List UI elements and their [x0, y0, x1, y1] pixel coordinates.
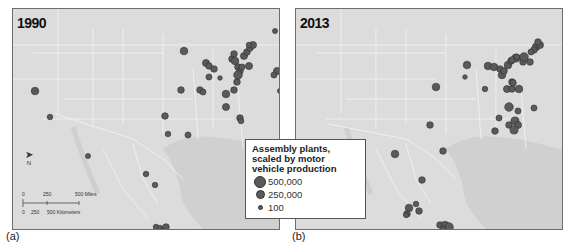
assembly-plant-2013 — [427, 122, 434, 129]
assembly-plant-1990 — [272, 28, 277, 33]
assembly-plant-2013 — [440, 148, 447, 155]
scale-miles-0: 0 — [22, 191, 25, 197]
legend-label: 500,000 — [268, 176, 302, 187]
assembly-plant-2013 — [416, 208, 423, 215]
year-label-1990: 1990 — [17, 15, 46, 31]
legend-item-250000: 250,000 — [252, 189, 359, 200]
assembly-plant-2013 — [509, 86, 516, 93]
assembly-plant-1990 — [271, 72, 277, 78]
legend-title-line-3: vehicle production — [252, 164, 359, 174]
map-panel-1990: 1990 ➤ N 0 250 500 Miles 0 250 500 Kilom… — [12, 8, 280, 230]
assembly-plant-1990 — [245, 62, 252, 69]
assembly-plant-1990 — [238, 118, 244, 124]
legend-label: 100 — [268, 202, 284, 213]
scale-miles-500: 500 Miles — [75, 191, 96, 197]
scale-miles-250: 250 — [43, 191, 51, 197]
assembly-plant-2013 — [510, 80, 517, 87]
assembly-plant-2013 — [510, 126, 518, 134]
caption-a: (a) — [6, 230, 19, 242]
north-label: N — [25, 160, 33, 166]
assembly-plant-1990 — [231, 87, 238, 94]
assembly-plant-1990 — [200, 89, 206, 95]
assembly-plant-2013 — [492, 128, 499, 135]
assembly-plant-1990 — [47, 114, 53, 120]
map-legend: Assembly plants, scaled by motor vehicle… — [245, 139, 366, 219]
assembly-plant-2013 — [515, 108, 521, 114]
north-arrow-icon: ➤ — [25, 149, 33, 160]
year-label-2013: 2013 — [300, 15, 329, 31]
assembly-plant-1990 — [222, 90, 230, 98]
assembly-plant-2013 — [432, 83, 440, 91]
assembly-plant-2013 — [505, 103, 514, 112]
circle-medium-icon — [256, 190, 265, 199]
assembly-plant-1990 — [165, 131, 171, 137]
legend-item-100: 100 — [252, 202, 359, 213]
assembly-plant-1990 — [31, 87, 39, 95]
assembly-plant-2013 — [528, 49, 534, 55]
assembly-plant-2013 — [440, 226, 446, 229]
assembly-plant-2013 — [496, 115, 502, 121]
scale-km-500: 500 Kilometers — [47, 209, 80, 215]
assembly-plant-2013 — [445, 223, 454, 229]
assembly-plant-1990 — [231, 51, 238, 58]
assembly-plant-1990 — [180, 47, 188, 55]
assembly-plant-1990 — [234, 71, 243, 80]
assembly-plant-2013 — [501, 68, 508, 75]
assembly-plant-2013 — [413, 201, 419, 207]
assembly-plant-2013 — [531, 105, 537, 111]
assembly-plant-1990 — [143, 171, 149, 177]
assembly-plant-1990 — [152, 182, 158, 188]
legend-item-500000: 500,000 — [252, 176, 359, 187]
assembly-plant-1990 — [162, 113, 169, 120]
caption-b: (b) — [292, 230, 305, 242]
assembly-plant-1990 — [178, 87, 185, 94]
assembly-plant-1990 — [246, 42, 252, 48]
assembly-plant-2013 — [520, 53, 529, 62]
assembly-plant-2013 — [419, 177, 426, 184]
assembly-plant-2013 — [482, 86, 488, 92]
circle-large-icon — [254, 176, 266, 188]
assembly-plant-2013 — [463, 61, 471, 69]
scale-bar: 0 250 500 Miles 0 250 500 Kilometers — [17, 191, 107, 219]
north-arrow: ➤ N — [25, 149, 33, 166]
assembly-plant-2013 — [535, 39, 542, 46]
assembly-plant-1990 — [211, 66, 218, 73]
assembly-plant-2013 — [515, 85, 523, 93]
assembly-plant-1990 — [85, 153, 90, 158]
assembly-plant-2013 — [403, 212, 408, 217]
assembly-plant-1990 — [239, 64, 245, 70]
assembly-plant-2013 — [463, 75, 468, 80]
circle-small-icon — [258, 205, 263, 210]
legend-label: 250,000 — [268, 189, 302, 200]
assembly-plant-1990 — [222, 103, 229, 110]
assembly-plant-1990 — [206, 74, 212, 80]
assembly-plant-1990 — [185, 132, 191, 138]
scale-km-0: 0 — [22, 209, 25, 215]
assembly-plant-2013 — [391, 150, 399, 158]
assembly-plant-2013 — [514, 54, 520, 60]
assembly-plant-1990 — [234, 79, 241, 86]
assembly-plant-1990 — [218, 76, 223, 81]
scale-km-250: 250 — [31, 209, 39, 215]
